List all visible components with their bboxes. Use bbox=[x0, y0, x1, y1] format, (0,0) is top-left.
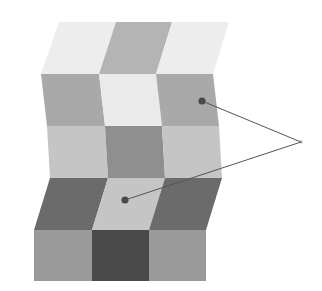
checker-tile-r2c1 bbox=[105, 126, 165, 178]
checker-tile-r1c0 bbox=[41, 74, 105, 126]
checker-tile-r4c1 bbox=[92, 230, 149, 281]
checkerboard-svg bbox=[0, 0, 322, 291]
checkerboard-surface bbox=[34, 22, 229, 281]
checker-tile-r2c2 bbox=[162, 126, 222, 178]
checker-tile-r1c1 bbox=[99, 74, 162, 126]
checker-tile-r1c2 bbox=[156, 74, 219, 126]
marker-dot-upper-marker bbox=[198, 97, 205, 104]
checker-tile-r4c2 bbox=[149, 230, 206, 281]
illusion-figure bbox=[0, 0, 322, 291]
convergence-vertex-dot bbox=[300, 141, 303, 144]
checker-tile-r4c0 bbox=[34, 230, 92, 281]
checker-tile-r2c0 bbox=[47, 126, 108, 178]
marker-dot-lower-marker bbox=[121, 196, 128, 203]
